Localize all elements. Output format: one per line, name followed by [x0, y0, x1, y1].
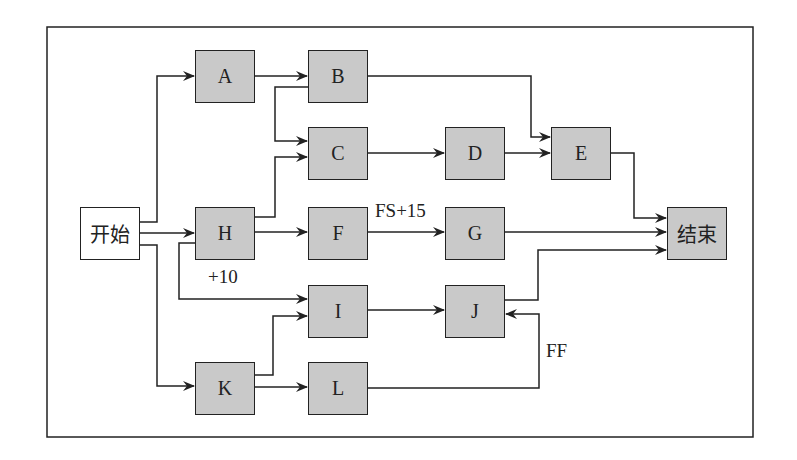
node-c: C: [308, 127, 368, 180]
label-ff: FF: [546, 340, 567, 362]
label-plus10: +10: [208, 266, 238, 288]
label-fs15: FS+15: [375, 200, 426, 222]
node-end: 结束: [667, 207, 727, 260]
node-h: H: [195, 207, 255, 260]
node-b: B: [308, 50, 368, 103]
node-g: G: [445, 207, 505, 260]
node-start: 开始: [80, 207, 140, 260]
network-diagram: 开始 A B C D E H F G 结束 I J K L FS+15 +10 …: [0, 0, 797, 460]
node-i: I: [308, 285, 368, 338]
node-d: D: [445, 127, 505, 180]
node-j: J: [445, 285, 505, 338]
node-l: L: [308, 362, 368, 415]
node-k: K: [195, 362, 255, 415]
node-f: F: [308, 207, 368, 260]
node-e: E: [551, 127, 611, 180]
node-a: A: [195, 50, 255, 103]
